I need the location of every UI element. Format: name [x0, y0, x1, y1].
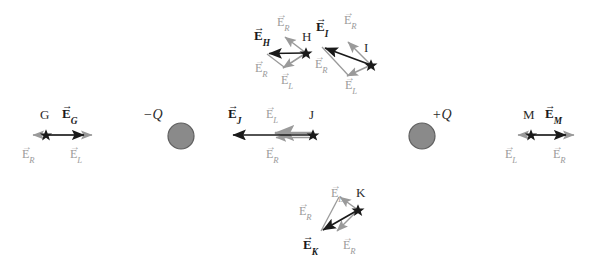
- j-point-label: J: [309, 108, 314, 121]
- k-ER-bottom-harpoon: →: [343, 233, 352, 243]
- i-ER-left-harpoon: →: [315, 52, 324, 62]
- g-ER-label: →ER: [22, 148, 35, 163]
- h-resultant-label: →EH: [254, 29, 270, 46]
- positive-charge-circle: [409, 123, 435, 149]
- j-resultant-harpoon: →: [228, 101, 238, 111]
- g-EL-label: →EL: [70, 148, 82, 163]
- negative-charge-circle: [168, 123, 194, 149]
- m-EL-label: →EL: [505, 148, 517, 163]
- h-point-label: H: [302, 30, 311, 43]
- positive-charge-label: +Q: [432, 108, 452, 122]
- m-resultant-label: →EM: [545, 107, 562, 124]
- h-EL-harpoon: →: [281, 68, 290, 78]
- i-EL-harpoon: →: [345, 73, 354, 83]
- h-ER-top-harpoon: →: [277, 10, 286, 20]
- k-ER-bottom-label: →ER: [343, 239, 356, 254]
- m-point-label: M: [523, 108, 535, 121]
- i-EL-label: →EL: [345, 79, 357, 94]
- k-EL-label: →EL: [331, 187, 343, 202]
- h-EL-label: →EL: [281, 74, 293, 89]
- h-vector-EL: [283, 53, 306, 68]
- k-ER-left-label: →ER: [299, 205, 312, 220]
- i-ER-left-label: →ER: [315, 58, 328, 73]
- j-ER-harpoon: →: [266, 142, 275, 152]
- k-resultant-harpoon: →: [303, 232, 313, 242]
- g-resultant-harpoon: →: [62, 101, 72, 111]
- i-point-label: I: [364, 41, 368, 54]
- g-field-point-star: [40, 129, 52, 140]
- i-resultant-harpoon: →: [316, 14, 326, 24]
- h-ER-top-label: →ER: [277, 16, 290, 31]
- j-EL-label: →EL: [266, 108, 278, 123]
- j-ER-label: →ER: [266, 148, 279, 163]
- negative-charge-label: −Q: [143, 108, 163, 122]
- i-ER-top-harpoon: →: [344, 8, 353, 18]
- h-vector-resultant: [269, 53, 306, 54]
- g-ER-harpoon: →: [22, 142, 31, 152]
- k-ER-left-harpoon: →: [299, 199, 308, 209]
- h-ER-left-label: →ER: [255, 62, 268, 77]
- k-EL-harpoon: →: [331, 181, 340, 191]
- i-resultant-label: →EI: [316, 20, 328, 37]
- j-resultant-label: →EJ: [228, 107, 241, 124]
- i-ER-top-label: →ER: [344, 14, 357, 29]
- m-EL-harpoon: →: [505, 142, 514, 152]
- g-point-label: G: [40, 108, 49, 121]
- k-point-label: K: [356, 186, 365, 199]
- h-resultant-harpoon: →: [254, 23, 264, 33]
- g-resultant-label: →EG: [62, 107, 77, 124]
- physics-vector-diagram: −Q +Q G →EG →ER →EL H →EH →ER →ER →EL I …: [0, 0, 606, 277]
- m-resultant-harpoon: →: [545, 101, 555, 111]
- m-ER-label: →ER: [553, 148, 566, 163]
- m-ER-harpoon: →: [553, 142, 562, 152]
- h-ER-left-harpoon: →: [255, 56, 264, 66]
- h-parallelogram-edge: [267, 54, 284, 67]
- g-EL-harpoon: →: [70, 142, 79, 152]
- k-resultant-label: →EK: [303, 238, 318, 255]
- m-field-point-star: [525, 129, 537, 140]
- j-EL-harpoon: →: [266, 102, 275, 112]
